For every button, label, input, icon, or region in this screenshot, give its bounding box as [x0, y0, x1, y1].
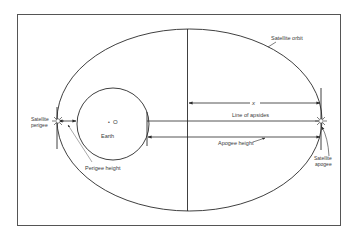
- apogee-height-label: Apogee height: [218, 140, 254, 146]
- apogee-height-pointer: [253, 138, 265, 142]
- earth-label: Earth: [101, 133, 114, 139]
- satellite-perigee-label-2: perigee: [31, 122, 48, 128]
- perigee-height-label: Perigee height: [85, 165, 121, 171]
- diagram-frame: [18, 15, 341, 226]
- satellite-orbit-label: Satellite orbit: [271, 35, 303, 41]
- satellite-apogee-pointer: [322, 127, 329, 156]
- perigee-height-pointer: [68, 125, 92, 162]
- satellite-orbit-pointer: [268, 42, 276, 47]
- center-label: O: [113, 119, 118, 125]
- satellite-orbit-ellipse: [57, 29, 322, 211]
- satellite-apogee-label-2: apogee: [315, 161, 332, 167]
- orbit-diagram: • O Earth x Line of apsides Apogee heigh…: [0, 0, 359, 238]
- satellite-perigee-icon: [52, 117, 64, 125]
- center-dot: •: [108, 119, 110, 125]
- line-of-apsides-label: Line of apsides: [232, 112, 269, 118]
